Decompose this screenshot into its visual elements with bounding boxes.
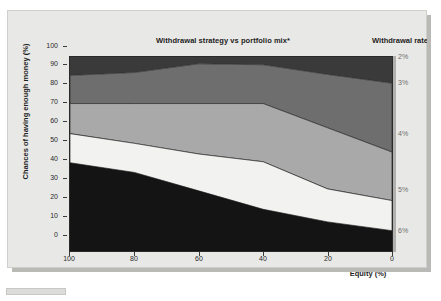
right-tick-4pct: 4% (398, 130, 422, 137)
y-tick-100: 100 (34, 42, 58, 49)
y-tickmark-0 (63, 235, 67, 236)
chart-panel: Withdrawal strategy vs portfolio mix* Wi… (7, 10, 427, 268)
right-axis-rail (393, 56, 396, 252)
y-tickmark-50 (63, 140, 67, 141)
y-tick-20: 20 (34, 193, 58, 200)
right-tick-2pct: 2% (398, 53, 422, 60)
y-tickmark-90 (63, 64, 67, 65)
y-tick-90: 90 (34, 60, 58, 67)
y-tick-0: 0 (34, 231, 58, 238)
y-tickmark-80 (63, 83, 67, 84)
x-tick-20: 20 (313, 255, 343, 262)
y-tick-10: 10 (34, 212, 58, 219)
y-tickmark-60 (63, 121, 67, 122)
y-tickmark-40 (63, 159, 67, 160)
stacked-area-svg (70, 57, 392, 251)
right-tick-6pct: 6% (398, 227, 422, 234)
y-tick-30: 30 (34, 174, 58, 181)
footer-bar (6, 288, 66, 295)
y-tick-60: 60 (34, 117, 58, 124)
y-tick-70: 70 (34, 98, 58, 105)
y-tick-80: 80 (34, 79, 58, 86)
chart-title: Withdrawal strategy vs portfolio mix* (128, 36, 318, 45)
y-tickmark-30 (63, 178, 67, 179)
y-tick-40: 40 (34, 155, 58, 162)
y-axis-label: Chances of having enough money (%) (21, 17, 30, 207)
panel-shadow-bottom (12, 268, 431, 272)
panel-shadow-right (427, 15, 431, 271)
x-tick-0: 0 (377, 255, 407, 262)
plot-area (69, 56, 393, 252)
right-tick-5pct: 5% (398, 186, 422, 193)
y-tickmark-100 (63, 46, 67, 47)
x-tick-80: 80 (119, 255, 149, 262)
right-tick-3pct: 3% (398, 79, 422, 86)
y-tickmark-20 (63, 197, 67, 198)
y-tick-50: 50 (34, 136, 58, 143)
x-tick-40: 40 (248, 255, 278, 262)
x-tick-60: 60 (184, 255, 214, 262)
screenshot-root: Withdrawal strategy vs portfolio mix* Wi… (0, 0, 441, 301)
y-tickmark-10 (63, 216, 67, 217)
y-tickmark-70 (63, 102, 67, 103)
x-tick-100: 100 (54, 255, 84, 262)
